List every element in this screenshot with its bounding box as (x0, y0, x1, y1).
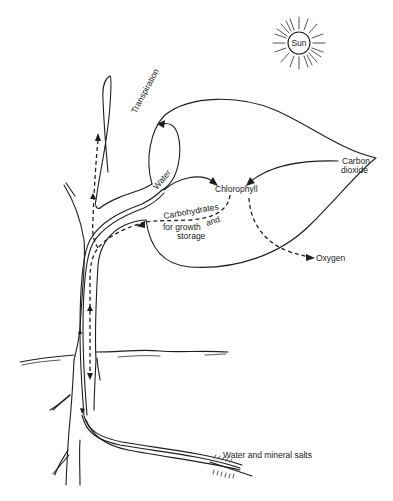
water-and-mineral-salts-label: Water and mineral salts (223, 450, 312, 460)
ground-surface (20, 350, 228, 365)
root (82, 415, 252, 478)
sun-icon: Sun (273, 17, 325, 69)
water-flow-path (78, 190, 164, 415)
sun-label: Sun (291, 38, 306, 48)
carbon-dioxide-flow (246, 161, 338, 186)
carbon-dioxide-label-line2: dioxide (341, 165, 368, 175)
carbohydrates-flow (87, 133, 230, 380)
leaf (146, 99, 376, 267)
arrowhead-up-icon (78, 328, 82, 334)
transpiration-label: Transpiration (129, 66, 161, 114)
arrowhead-down-icon (87, 373, 93, 380)
arrowhead-up-icon (90, 193, 96, 199)
water-to-chlorophyll-flow (164, 177, 218, 190)
arrowhead-up-icon (87, 305, 93, 311)
chlorophyll-label: Chlorophyll (215, 184, 258, 194)
carbohydrates-label-and: and (205, 214, 222, 228)
arrowhead-left-icon (157, 120, 165, 128)
oxygen-label: Oxygen (316, 253, 346, 263)
stem (50, 76, 152, 485)
photosynthesis-diagram: Sun (0, 0, 393, 501)
arrowhead-up-icon (95, 133, 101, 141)
arrowhead-right-icon (306, 254, 315, 261)
carbohydrates-label-line3: storage (177, 231, 206, 241)
water-label: Water (151, 168, 173, 192)
